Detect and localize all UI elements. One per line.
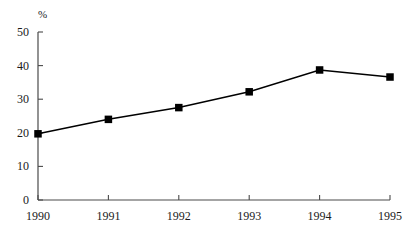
x-axis-tick-label: 1994 [308, 209, 332, 224]
data-point-marker [175, 104, 183, 112]
y-axis-tick-label: 30 [0, 92, 29, 107]
y-axis-tick-label: 40 [0, 58, 29, 73]
y-axis-tick-label: 50 [0, 25, 29, 40]
line-chart: % 01020304050 199019911992199319941995 [0, 0, 414, 235]
x-axis-tick-label: 1993 [237, 209, 261, 224]
data-point-marker [105, 116, 113, 124]
y-axis-tick-label: 20 [0, 125, 29, 140]
x-axis-tick-label: 1991 [96, 209, 120, 224]
y-axis-tick-label: 10 [0, 159, 29, 174]
x-axis-tick-label: 1992 [167, 209, 191, 224]
y-axis-unit-label: % [38, 8, 47, 20]
x-axis-tick-label: 1995 [378, 209, 402, 224]
data-point-marker [34, 130, 42, 138]
data-point-marker [245, 88, 253, 96]
chart-canvas [0, 0, 414, 235]
y-axis-tick-label: 0 [0, 193, 29, 208]
data-point-marker [386, 73, 394, 81]
x-axis-tick-label: 1990 [26, 209, 50, 224]
data-point-marker [316, 66, 324, 74]
series-line [38, 70, 390, 134]
